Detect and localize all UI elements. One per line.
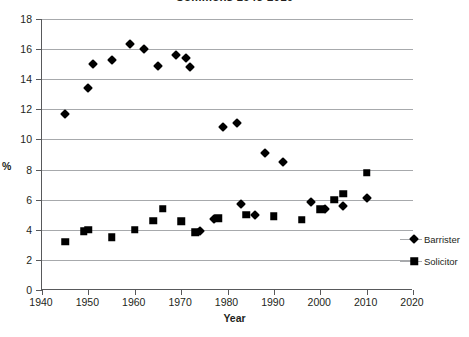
gridline: [42, 109, 413, 110]
plot-area: [41, 19, 412, 290]
x-axis-tick-label: 1940: [19, 297, 63, 308]
data-point-solicitor: [191, 228, 199, 236]
data-point-solicitor: [214, 215, 222, 223]
x-axis-tick: [274, 290, 275, 295]
x-axis-tick: [42, 290, 43, 295]
data-point-solicitor: [177, 218, 185, 226]
chart-legend: Barrister Solicitor: [408, 228, 469, 272]
y-axis-tick: [36, 200, 42, 201]
y-axis-tick-label: 4: [2, 225, 32, 236]
scatter-chart: Commons 1945-2010 % Year 024681012141618…: [0, 0, 469, 337]
gridline: [42, 79, 413, 80]
data-point-barrister: [125, 39, 135, 49]
x-axis-tick: [367, 290, 368, 295]
gridline: [42, 230, 413, 231]
y-axis-tick: [36, 49, 42, 50]
x-axis-tick-label: 1970: [158, 297, 202, 308]
data-point-solicitor: [61, 238, 69, 246]
x-axis-tick-label: 1950: [65, 297, 109, 308]
y-axis-tick: [36, 109, 42, 110]
y-axis-tick-label: 14: [2, 74, 32, 85]
x-axis-tick: [88, 290, 89, 295]
y-axis-tick-label: 6: [2, 195, 32, 206]
data-point-solicitor: [242, 211, 250, 219]
data-point-solicitor: [150, 217, 158, 225]
data-point-barrister: [185, 62, 195, 72]
data-point-barrister: [218, 122, 228, 132]
data-point-barrister: [250, 210, 260, 220]
y-axis-tick-label: 8: [2, 165, 32, 176]
gridline: [42, 260, 413, 261]
data-point-solicitor: [159, 205, 167, 213]
x-axis-tick-label: 2020: [390, 297, 434, 308]
data-point-barrister: [172, 50, 182, 60]
data-point-barrister: [139, 44, 149, 54]
x-axis-tick-label: 1960: [112, 297, 156, 308]
data-point-solicitor: [131, 226, 139, 234]
data-point-solicitor: [298, 216, 306, 224]
gridline: [42, 139, 413, 140]
y-axis-tick: [36, 79, 42, 80]
x-axis-tick: [320, 290, 321, 295]
y-axis-tick-label: 10: [2, 134, 32, 145]
y-axis-tick: [36, 230, 42, 231]
data-point-solicitor: [85, 226, 93, 234]
x-axis-tick: [181, 290, 182, 295]
x-axis-tick-label: 1990: [251, 297, 295, 308]
data-point-solicitor: [108, 234, 116, 242]
legend-item-barrister: Barrister: [408, 228, 469, 250]
data-point-barrister: [107, 55, 117, 65]
y-axis-tick-label: 16: [2, 44, 32, 55]
data-point-barrister: [60, 109, 70, 119]
data-point-solicitor: [340, 190, 348, 198]
y-axis-tick-label: 2: [2, 255, 32, 266]
data-point-solicitor: [270, 212, 278, 220]
gridline: [42, 19, 413, 20]
data-point-barrister: [338, 201, 348, 211]
x-axis-tick: [135, 290, 136, 295]
y-axis-tick-label: 12: [2, 104, 32, 115]
x-axis-title: Year: [0, 312, 469, 324]
data-point-barrister: [362, 193, 372, 203]
chart-title: Commons 1945-2010: [0, 0, 469, 3]
y-axis-tick: [36, 139, 42, 140]
gridline: [42, 49, 413, 50]
x-axis-tick-label: 2010: [344, 297, 388, 308]
y-axis-tick: [36, 19, 42, 20]
x-axis-tick-label: 2000: [297, 297, 341, 308]
data-point-barrister: [306, 197, 316, 207]
data-point-solicitor: [317, 206, 325, 214]
x-axis-tick: [228, 290, 229, 295]
data-point-barrister: [232, 118, 242, 128]
data-point-solicitor: [363, 169, 371, 177]
legend-item-solicitor: Solicitor: [408, 250, 469, 272]
data-point-solicitor: [330, 196, 338, 204]
data-point-barrister: [153, 61, 163, 71]
x-axis-tick-label: 1980: [205, 297, 249, 308]
gridline: [42, 170, 413, 171]
x-axis-tick: [413, 290, 414, 295]
data-point-barrister: [236, 199, 246, 209]
data-point-barrister: [83, 83, 93, 93]
legend-label-solicitor: Solicitor: [424, 256, 458, 267]
diamond-marker-icon: [408, 233, 420, 245]
y-axis-tick-label: 18: [2, 14, 32, 25]
gridline: [42, 200, 413, 201]
y-axis-tick: [36, 260, 42, 261]
data-point-barrister: [278, 157, 288, 167]
legend-label-barrister: Barrister: [424, 234, 460, 245]
y-axis-tick-label: 0: [2, 285, 32, 296]
square-marker-icon: [408, 255, 420, 267]
y-axis-tick: [36, 170, 42, 171]
data-point-barrister: [88, 59, 98, 69]
data-point-barrister: [260, 148, 270, 158]
